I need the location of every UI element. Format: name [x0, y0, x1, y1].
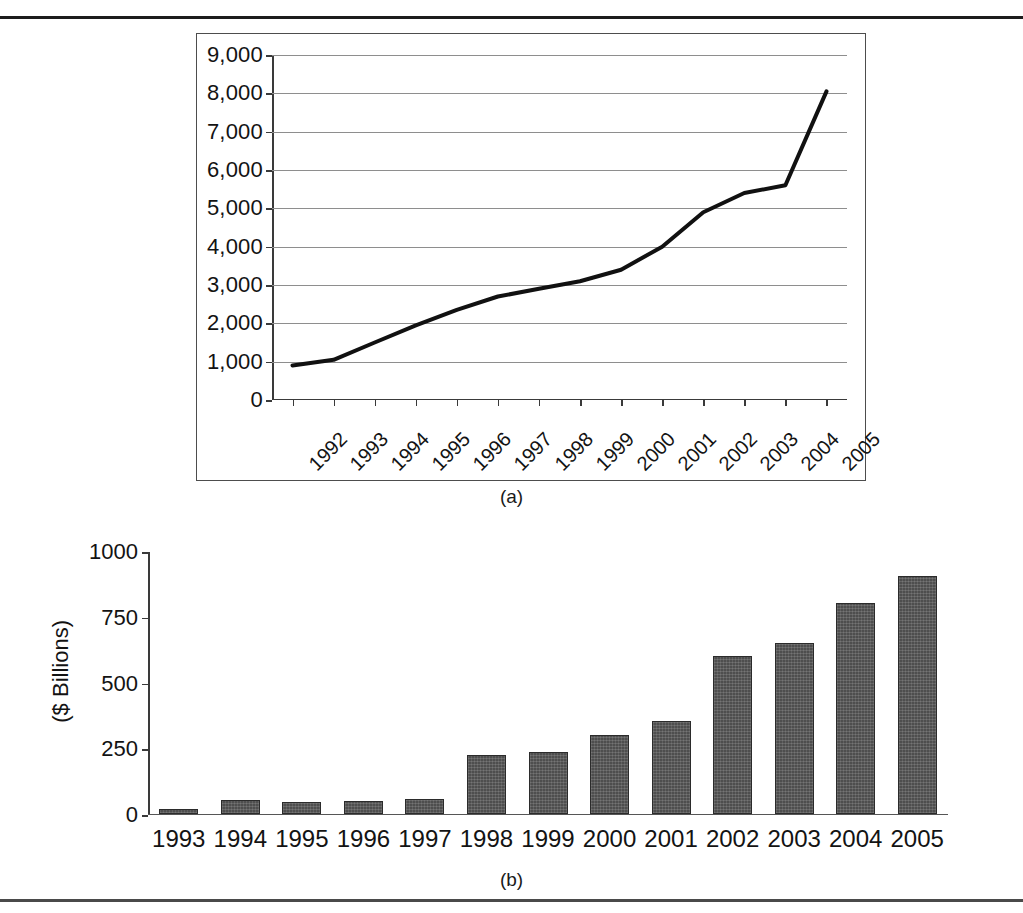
- x-tick-label: 2001: [644, 825, 697, 853]
- x-tick-mark: [334, 400, 336, 406]
- bar: [282, 802, 321, 814]
- y-tick-mark: [142, 815, 148, 817]
- x-tick-label: 1997: [398, 825, 451, 853]
- bar: [590, 735, 629, 814]
- y-tick-mark: [266, 400, 272, 402]
- bar: [652, 721, 691, 813]
- y-tick-label: 2,000: [207, 310, 263, 336]
- x-tick-label: 2003: [767, 825, 820, 853]
- x-tick-mark: [703, 400, 705, 406]
- y-tick-label: 0: [126, 802, 138, 828]
- x-tick-mark: [826, 400, 828, 406]
- y-tick-label: 9,000: [207, 42, 263, 68]
- x-tick-label: 1999: [521, 825, 574, 853]
- x-tick-label: 2004: [829, 825, 882, 853]
- y-tick-label: 250: [101, 736, 138, 762]
- y-tick-mark: [142, 684, 148, 686]
- line-chart-panel-a: 01,0002,0003,0004,0005,0006,0007,0008,00…: [272, 55, 847, 400]
- x-tick-label: 1998: [460, 825, 513, 853]
- y-tick-label: 6,000: [207, 157, 263, 183]
- x-tick-mark: [580, 400, 582, 406]
- caption-panel-a: (a): [0, 486, 1023, 508]
- bar: [529, 752, 568, 813]
- x-tick-label: 2000: [583, 825, 636, 853]
- top-divider-rule: [0, 16, 1023, 19]
- x-tick-label: 2002: [706, 825, 759, 853]
- line-series-a: [272, 55, 847, 400]
- y-tick-label: 750: [101, 605, 138, 631]
- x-axis-line-b: [148, 814, 948, 816]
- y-tick-label: 500: [101, 671, 138, 697]
- y-tick-label: 1,000: [207, 349, 263, 375]
- bar: [344, 801, 383, 814]
- bar: [221, 800, 260, 813]
- x-tick-label: 2005: [891, 825, 944, 853]
- x-tick-mark: [375, 400, 377, 406]
- bar: [467, 755, 506, 813]
- bar: [775, 643, 814, 814]
- x-tick-mark: [293, 400, 295, 406]
- bar-chart-panel-b: 02505007501000 1993199419951996199719981…: [148, 552, 948, 815]
- x-tick-mark: [498, 400, 500, 406]
- bar: [405, 799, 444, 813]
- bar: [159, 809, 198, 814]
- bar: [836, 603, 875, 813]
- x-tick-mark: [621, 400, 623, 406]
- caption-panel-b: (b): [0, 869, 1023, 891]
- x-tick-label: 1994: [214, 825, 267, 853]
- y-tick-label: 3,000: [207, 272, 263, 298]
- x-tick-mark: [744, 400, 746, 406]
- y-axis-title-b: ($ Billions): [48, 620, 74, 723]
- x-tick-label: 1993: [152, 825, 205, 853]
- x-tick-mark: [416, 400, 418, 406]
- y-tick-mark: [142, 749, 148, 751]
- y-tick-label: 1000: [89, 539, 138, 565]
- bottom-divider-rule: [0, 899, 1023, 902]
- y-axis-line-b: [148, 552, 150, 815]
- y-tick-label: 5,000: [207, 195, 263, 221]
- y-tick-label: 4,000: [207, 234, 263, 260]
- y-tick-label: 8,000: [207, 80, 263, 106]
- x-tick-label: 1995: [275, 825, 328, 853]
- x-tick-label: 1996: [337, 825, 390, 853]
- y-tick-label: 0: [251, 387, 263, 413]
- bar: [898, 576, 937, 814]
- x-tick-mark: [662, 400, 664, 406]
- y-tick-label: 7,000: [207, 119, 263, 145]
- x-tick-mark: [539, 400, 541, 406]
- x-tick-mark: [785, 400, 787, 406]
- bar: [713, 656, 752, 814]
- figure-page: 01,0002,0003,0004,0005,0006,0007,0008,00…: [0, 0, 1023, 913]
- y-tick-mark: [142, 552, 148, 554]
- y-tick-mark: [142, 618, 148, 620]
- x-tick-mark: [457, 400, 459, 406]
